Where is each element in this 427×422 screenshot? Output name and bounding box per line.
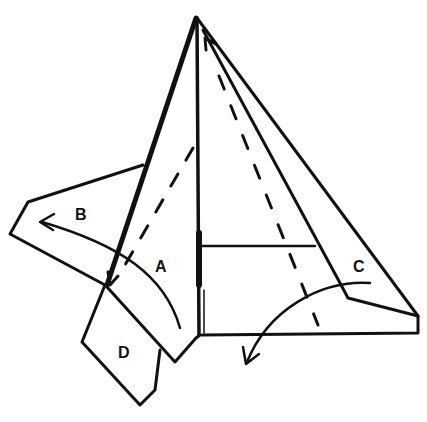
flap-b: B: [10, 165, 143, 285]
flap-b-outline: [10, 165, 143, 285]
origami-diagram: A B D C: [0, 0, 427, 422]
label-d: D: [118, 344, 130, 361]
arrow-c-curve: [247, 283, 370, 362]
label-b: B: [75, 206, 87, 223]
center-spine: [197, 18, 204, 335]
arrow-b-head: [40, 214, 54, 230]
right-face: [197, 18, 418, 335]
flap-a: A: [107, 18, 200, 362]
diagram-canvas: A B D C: [0, 0, 427, 422]
left-outer-edge: [107, 18, 196, 285]
label-c: C: [353, 258, 365, 275]
right-outer-edge: [197, 18, 418, 335]
label-a: A: [155, 258, 167, 275]
